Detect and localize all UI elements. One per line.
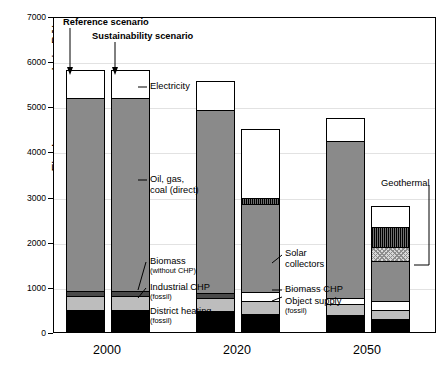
bar-segment-electricity bbox=[327, 119, 364, 142]
bar-segment-district bbox=[67, 310, 104, 333]
y-axis-ticks: 01000200030004000500060007000 bbox=[0, 0, 53, 371]
bar-segment-object bbox=[372, 310, 409, 320]
bar-segment-indchp bbox=[112, 296, 149, 311]
bar-segment-solar bbox=[242, 198, 279, 205]
annotation-reference-scenario: Reference scenario bbox=[63, 17, 149, 28]
annotation-industrial-chp-sub: (fossil) bbox=[150, 293, 172, 302]
bar-2020-sustainability[interactable] bbox=[241, 129, 280, 332]
bar-segment-object bbox=[242, 301, 279, 313]
bar-2000-sustainability[interactable] bbox=[111, 70, 150, 332]
y-tick-label: 4000 bbox=[6, 147, 46, 157]
plot-area bbox=[53, 17, 436, 333]
annotation-district-heating-sub: (fossil) bbox=[150, 317, 172, 326]
y-tick-label: 5000 bbox=[6, 102, 46, 112]
annotation-oil-gas-coal-line1: Oil, gas, bbox=[150, 174, 184, 185]
bar-segment-oil bbox=[372, 261, 409, 302]
y-tick-label: 3000 bbox=[6, 193, 46, 203]
bar-segment-electricity bbox=[197, 82, 234, 109]
y-tick-label: 2000 bbox=[6, 238, 46, 248]
bar-2050-sustainability[interactable] bbox=[371, 206, 410, 332]
bar-2020-reference[interactable] bbox=[196, 81, 235, 332]
y-tick-label: 0 bbox=[6, 328, 46, 338]
bar-segment-biochp bbox=[242, 292, 279, 301]
annotation-object-supply: Object supply bbox=[285, 296, 341, 307]
annotation-oil-gas-coal-line2: coal (direct) bbox=[150, 185, 199, 196]
annotation-electricity: Electricity bbox=[150, 81, 190, 92]
bar-segment-oil bbox=[112, 98, 149, 291]
annotation-biomass-sub: (without CHP) bbox=[150, 267, 196, 276]
bar-segment-biomass bbox=[67, 291, 104, 296]
y-tick-label: 7000 bbox=[6, 12, 46, 22]
x-tick-label-2050: 2050 bbox=[337, 343, 397, 357]
bar-segment-indchp bbox=[67, 296, 104, 311]
bar-segment-electricity bbox=[112, 71, 149, 98]
annotation-biomass: Biomass bbox=[150, 256, 186, 267]
bar-segment-district bbox=[112, 310, 149, 333]
annotation-industrial-chp: Industrial CHP bbox=[150, 282, 210, 293]
annotation-district-heating: District heating bbox=[150, 306, 212, 317]
bar-segment-district bbox=[372, 319, 409, 333]
annotation-sustainability-scenario: Sustainability scenario bbox=[92, 31, 193, 42]
bar-segment-geothermal bbox=[372, 247, 409, 261]
bar-segment-biomass bbox=[197, 293, 234, 298]
bar-segment-biomass bbox=[112, 291, 149, 296]
y-tick-label: 6000 bbox=[6, 57, 46, 67]
bar-segment-district bbox=[327, 315, 364, 333]
bar-segment-oil bbox=[327, 141, 364, 298]
bar-segment-electricity bbox=[242, 130, 279, 198]
bar-segment-oil bbox=[242, 204, 279, 292]
bar-segment-biochp bbox=[372, 301, 409, 309]
annotation-biomass-chp: Biomass CHP bbox=[285, 284, 343, 295]
annotation-object-supply-sub: (fossil) bbox=[285, 307, 307, 316]
annotation-solar-collectors-line1: Solar bbox=[285, 248, 307, 259]
bar-segment-oil bbox=[197, 110, 234, 294]
bar-segment-district bbox=[242, 314, 279, 333]
bar-segment-electricity bbox=[67, 71, 104, 98]
x-tick-label-2020: 2020 bbox=[207, 343, 267, 357]
chart-root: Final energy supply in PJ/a 010002000300… bbox=[0, 0, 447, 371]
bar-segment-oil bbox=[67, 98, 104, 291]
annotation-geothermal: Geothermal bbox=[381, 178, 430, 189]
bar-segment-solar bbox=[372, 227, 409, 247]
gridline bbox=[54, 63, 435, 64]
annotation-solar-collectors-line2: collectors bbox=[285, 259, 324, 270]
x-tick-label-2000: 2000 bbox=[77, 343, 137, 357]
y-tick-mark bbox=[48, 333, 53, 334]
bar-segment-electricity bbox=[372, 207, 409, 227]
bar-2000-reference[interactable] bbox=[66, 70, 105, 332]
y-tick-label: 1000 bbox=[6, 283, 46, 293]
